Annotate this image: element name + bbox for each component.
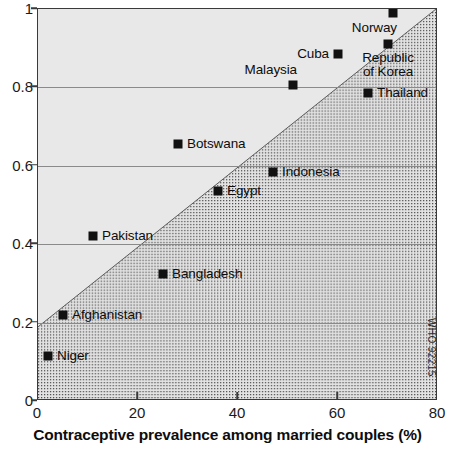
data-point-marker	[289, 81, 298, 90]
gridline-0.2	[38, 323, 436, 324]
data-point-label: Egypt	[227, 184, 261, 198]
who-watermark: WHO 92215	[426, 318, 437, 377]
x-tick-label: 40	[229, 404, 246, 421]
y-tick-mark	[31, 242, 37, 244]
data-point-marker	[59, 310, 68, 319]
x-tick-label: 0	[33, 404, 41, 421]
y-tick-label: 0.8	[0, 78, 33, 95]
gridline-0.4	[38, 244, 436, 245]
data-point-marker	[269, 167, 278, 176]
x-tick-label: 20	[129, 404, 146, 421]
data-point-label: Botswana	[187, 137, 246, 151]
plot-area: NorwayRepublic of KoreaCubaMalaysiaThail…	[37, 8, 437, 400]
x-axis-label: Contraceptive prevalence among married c…	[0, 426, 455, 444]
data-point-marker	[334, 50, 343, 59]
y-tick-mark	[31, 399, 37, 401]
y-tick-label: 0.6	[0, 156, 33, 173]
data-point-marker	[214, 187, 223, 196]
y-tick-label: 0.2	[0, 313, 33, 330]
data-point-label: Niger	[57, 349, 89, 363]
y-tick-mark	[31, 86, 37, 88]
gridline-0.6	[38, 166, 436, 167]
data-point-marker	[159, 269, 168, 278]
data-point-label: Bangladesh	[172, 267, 242, 281]
data-point-marker	[89, 232, 98, 241]
x-tick-mark	[236, 392, 238, 400]
y-tick-label: 0	[0, 392, 33, 409]
y-tick-mark	[31, 321, 37, 323]
y-tick-label: 1	[0, 0, 33, 17]
data-point-label: Afghanistan	[72, 308, 142, 322]
data-point-label: Indonesia	[282, 165, 340, 179]
x-tick-mark	[136, 392, 138, 400]
data-point-marker	[364, 89, 373, 98]
data-point-label: Malaysia	[245, 63, 297, 77]
chart-figure: NorwayRepublic of KoreaCubaMalaysiaThail…	[0, 0, 455, 451]
x-tick-label: 80	[429, 404, 446, 421]
data-point-marker	[384, 40, 393, 49]
y-tick-label: 0.4	[0, 235, 33, 252]
y-tick-mark	[31, 164, 37, 166]
data-point-label: Pakistan	[102, 229, 153, 243]
data-point-label: Norway	[352, 21, 397, 35]
data-point-marker	[44, 351, 53, 360]
data-point-label: Thailand	[377, 86, 428, 100]
data-point-label: Cuba	[297, 47, 329, 61]
data-point-marker	[389, 8, 398, 17]
data-point-marker	[174, 140, 183, 149]
x-tick-label: 60	[329, 404, 346, 421]
y-tick-mark	[31, 7, 37, 9]
data-point-label: Republic of Korea	[362, 51, 414, 79]
x-tick-mark	[336, 392, 338, 400]
